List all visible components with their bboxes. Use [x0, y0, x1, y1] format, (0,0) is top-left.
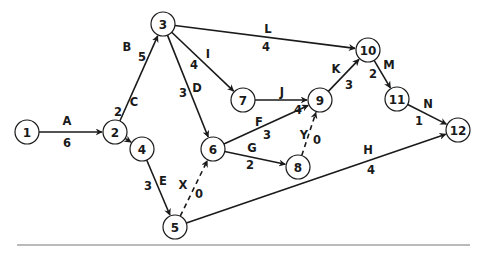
activity-name-d: D [192, 81, 202, 95]
activity-duration-b: 5 [138, 50, 146, 64]
event-node-8: 8 [286, 155, 310, 179]
node-label: 5 [171, 221, 179, 235]
activity-duration-e: 3 [144, 179, 152, 193]
activity-duration-c: 2 [114, 105, 122, 119]
event-node-1: 1 [15, 120, 39, 144]
activity-name-y: Y [299, 128, 309, 142]
activity-arrow-i [172, 32, 234, 91]
activity-name-f: F [255, 115, 263, 129]
node-label: 9 [316, 94, 324, 108]
activity-name-e: E [159, 174, 167, 188]
event-node-6: 6 [201, 137, 225, 161]
node-label: 1 [23, 126, 31, 140]
activity-arrow-c [125, 138, 131, 142]
event-node-10: 10 [356, 38, 380, 62]
event-node-2: 2 [103, 120, 127, 144]
event-node-5: 5 [163, 215, 187, 239]
event-node-3: 3 [151, 12, 175, 36]
event-node-11: 11 [385, 87, 409, 111]
activity-duration-m: 2 [369, 67, 377, 81]
activity-name-j: J [279, 85, 284, 99]
activity-duration-i: 4 [190, 58, 198, 72]
arrow-line [125, 138, 131, 142]
activity-name-l: L [264, 22, 272, 36]
node-label: 7 [239, 94, 247, 108]
activity-name-i: I [206, 47, 210, 61]
node-label: 4 [138, 143, 146, 157]
node-label: 12 [450, 124, 467, 138]
activity-name-k: K [332, 62, 342, 76]
activity-name-h: H [363, 143, 373, 157]
node-label: 2 [111, 126, 119, 140]
activity-duration-g: 2 [246, 158, 254, 172]
activity-name-b: B [123, 40, 132, 54]
activity-name-n: N [423, 97, 433, 111]
activity-duration-y: 0 [313, 133, 321, 147]
activity-duration-x: 0 [195, 187, 203, 201]
event-node-9: 9 [308, 88, 332, 112]
activity-duration-k: 3 [345, 78, 353, 92]
event-node-7: 7 [231, 88, 255, 112]
activity-duration-f: 3 [263, 128, 271, 142]
event-nodes: 123456789101112 [15, 12, 470, 239]
activity-duration-n: 1 [415, 114, 423, 128]
node-label: 10 [360, 44, 377, 58]
activity-arrow-d [167, 35, 208, 137]
activity-duration-l: 4 [262, 40, 270, 54]
activity-duration-j: 4 [294, 103, 302, 117]
node-label: 8 [294, 161, 302, 175]
arrow-line [172, 32, 234, 91]
node-label: 6 [209, 143, 217, 157]
event-node-4: 4 [130, 137, 154, 161]
activity-name-g: G [247, 141, 256, 155]
activity-name-x: X [179, 178, 188, 192]
activity-name-m: M [383, 58, 394, 72]
activity-arrows [39, 26, 446, 224]
activity-name-c: C [130, 95, 138, 109]
activity-name-a: A [63, 114, 72, 128]
node-label: 3 [159, 18, 167, 32]
activity-duration-a: 6 [63, 136, 71, 150]
activity-duration-d: 3 [179, 86, 187, 100]
node-label: 11 [389, 93, 406, 107]
activity-duration-h: 4 [367, 163, 375, 177]
event-node-12: 12 [446, 118, 470, 142]
arrow-line [167, 35, 208, 137]
network-diagram: A6B5C2D3E3F3G2H4I4J4K3L4M2N1X0Y0 1234567… [0, 0, 484, 259]
